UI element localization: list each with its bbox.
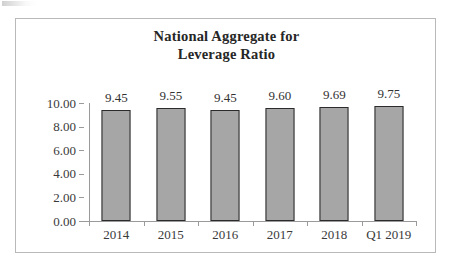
chart-frame: National Aggregate for Leverage Ratio 10… [15,18,436,253]
x-axis-category-label: 2014 [103,227,129,243]
category-separator-tick [89,221,90,226]
x-axis-category-label: 2017 [267,227,293,243]
y-axis-tick-mark [79,150,84,151]
bar-group: 9.60 [253,103,308,221]
bar [265,108,294,221]
y-axis-tick-label: 10.00 [47,96,76,112]
bar [374,106,403,221]
chart-title-line-1: National Aggregate for [16,27,437,45]
plot-area: 10.008.006.004.002.000.00 9.459.559.459.… [89,103,416,221]
chart-title-line-2: Leverage Ratio [16,45,437,63]
bar-value-label: 9.55 [159,88,182,104]
x-axis-line [84,221,416,222]
category-separator-tick [144,221,145,226]
y-axis-tick-label: 6.00 [53,143,76,159]
bar-group: 9.69 [307,103,362,221]
y-axis-tick-mark [79,221,84,222]
category-separator-tick [307,221,308,226]
x-axis-category-label: 2016 [212,227,238,243]
y-axis-tick-mark [79,174,84,175]
category-separator-tick [416,221,417,226]
y-axis-tick-label: 4.00 [53,166,76,182]
bar-group: 9.55 [144,103,199,221]
category-separator-tick [253,221,254,226]
bar [320,107,349,221]
bar-value-label: 9.45 [214,90,237,106]
y-axis-tick-label: 8.00 [53,119,76,135]
x-axis-category-label: 2018 [321,227,347,243]
bar-value-label: 9.45 [105,90,128,106]
bar-group: 9.45 [89,103,144,221]
y-axis-tick-label: 2.00 [53,190,76,206]
chart-title: National Aggregate for Leverage Ratio [16,27,437,63]
bar-value-label: 9.75 [377,86,400,102]
category-separator-tick [198,221,199,226]
scan-artifact [2,1,36,6]
bar [211,110,240,222]
x-axis-category-label: Q1 2019 [366,227,411,243]
bar-group: 9.75 [362,103,417,221]
bar [156,108,185,221]
category-separator-tick [362,221,363,226]
bar-value-label: 9.60 [268,88,291,104]
y-axis-tick-label: 0.00 [53,214,76,230]
y-axis-tick-mark [79,197,84,198]
bar [102,110,131,222]
bar-group: 9.45 [198,103,253,221]
y-axis-tick-mark [79,127,84,128]
x-axis-category-label: 2015 [158,227,184,243]
y-axis-tick-mark [79,103,84,104]
bar-value-label: 9.69 [323,87,346,103]
